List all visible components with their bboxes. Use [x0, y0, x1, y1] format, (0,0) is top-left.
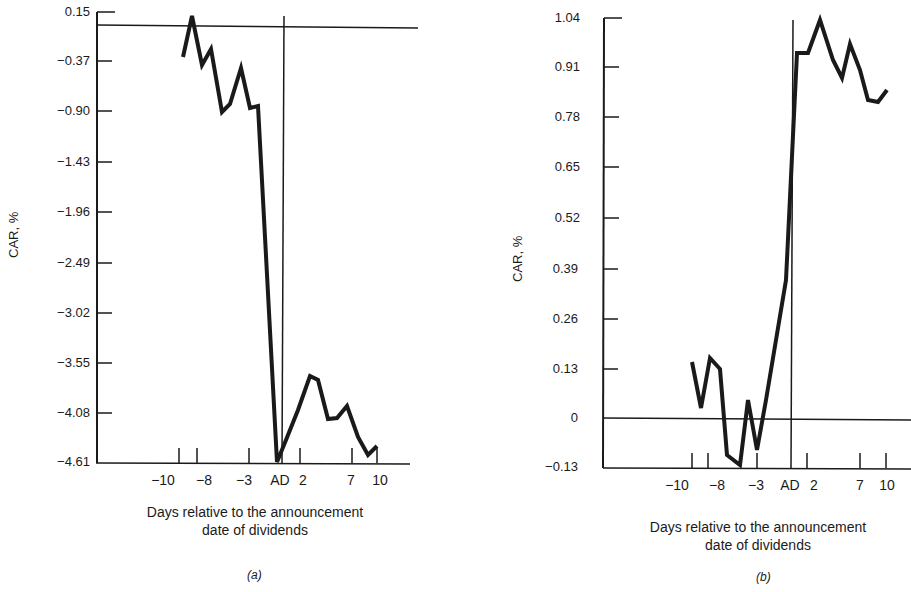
y-axis-label: CAR, %	[510, 236, 525, 282]
x-tick-label: 2	[810, 477, 818, 493]
announcement-date-line	[791, 20, 793, 468]
zero-reference-line	[603, 418, 911, 420]
x-tick-label: −10	[151, 472, 175, 488]
chart-b-plot	[480, 0, 911, 592]
y-tick-label: −0.37	[30, 54, 90, 68]
x-axis-label-line2: date of dividends	[608, 536, 908, 554]
panel-caption: (a)	[247, 568, 262, 582]
x-tick-label: 7	[347, 472, 355, 488]
x-tick-label: −10	[665, 477, 689, 493]
y-tick-label: −4.08	[30, 406, 90, 420]
x-axis-label-line2: date of dividends	[110, 521, 400, 539]
y-tick-label: −4.61	[30, 455, 90, 469]
chart-panel-b: 1.04 0.91 0.78 0.65 0.52 0.39 0.26 0.13 …	[480, 0, 911, 592]
announcement-date-line	[282, 16, 284, 463]
y-tick-label: −0.90	[30, 104, 90, 118]
y-tick-label: 0.13	[518, 362, 578, 376]
x-tick-label: −3	[748, 477, 764, 493]
x-axis-label-line1: Days relative to the announcement	[608, 518, 908, 536]
x-tick-label: AD	[270, 472, 289, 488]
y-ticks	[97, 12, 115, 413]
car-series-line	[183, 16, 377, 462]
y-tick-label: −3.02	[30, 306, 90, 320]
y-tick-label: −3.55	[30, 356, 90, 370]
y-tick-label: 0.39	[518, 262, 578, 276]
y-tick-label: 0.15	[30, 5, 90, 19]
y-tick-label: −0.13	[518, 460, 578, 474]
y-tick-label: 0	[518, 411, 578, 425]
x-tick-label: 10	[879, 477, 895, 493]
x-axis	[96, 463, 410, 464]
y-axis	[603, 18, 604, 468]
y-tick-label: 0.26	[518, 312, 578, 326]
x-tick-label: −8	[709, 477, 725, 493]
y-tick-label: −1.43	[30, 155, 90, 169]
zero-reference-line	[97, 25, 418, 28]
x-tick-label: −8	[196, 472, 212, 488]
x-axis-label: Days relative to the announcement date o…	[608, 518, 908, 554]
x-tick-label: 10	[372, 472, 388, 488]
y-tick-label: 0.52	[520, 211, 580, 225]
car-series-line	[692, 20, 887, 465]
chart-panel-a: 0.15 −0.37 −0.90 −1.43 −1.96 −2.49 −3.02…	[0, 0, 460, 592]
y-axis-label: CAR, %	[6, 212, 21, 258]
y-tick-label: 0.65	[520, 160, 580, 174]
x-axis	[603, 468, 911, 469]
y-ticks	[603, 18, 622, 369]
y-tick-label: −2.49	[30, 256, 90, 270]
y-tick-label: 0.91	[520, 60, 580, 74]
y-tick-label: 1.04	[520, 11, 580, 25]
x-tick-label: 2	[299, 472, 307, 488]
y-tick-label: 0.78	[520, 110, 580, 124]
x-tick-label: 7	[856, 477, 864, 493]
y-tick-label: −1.96	[30, 205, 90, 219]
x-ticks	[692, 453, 886, 468]
x-axis-label: Days relative to the announcement date o…	[110, 503, 400, 539]
panel-caption: (b)	[756, 570, 771, 584]
x-tick-label: AD	[780, 477, 799, 493]
x-axis-label-line1: Days relative to the announcement	[110, 503, 400, 521]
x-tick-label: −3	[236, 472, 252, 488]
